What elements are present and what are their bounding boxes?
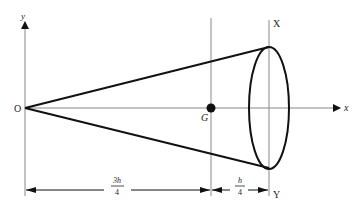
bottom-point-label: Y [273, 189, 280, 200]
centroid-label: G [201, 112, 208, 123]
dimension-left-denominator: 4 [115, 188, 119, 197]
top-point-label: X [273, 18, 281, 29]
x-axis-label: x [343, 102, 349, 113]
dimension-left-numerator: 3h [112, 176, 121, 185]
dimension-right-denominator: 4 [238, 188, 242, 197]
y-axis-label: y [20, 11, 25, 21]
cone-diagram: y x O X Y G 3h 4 h 4 [0, 0, 362, 210]
dimension-right-numerator: h [238, 176, 242, 185]
origin-label: O [14, 103, 21, 114]
